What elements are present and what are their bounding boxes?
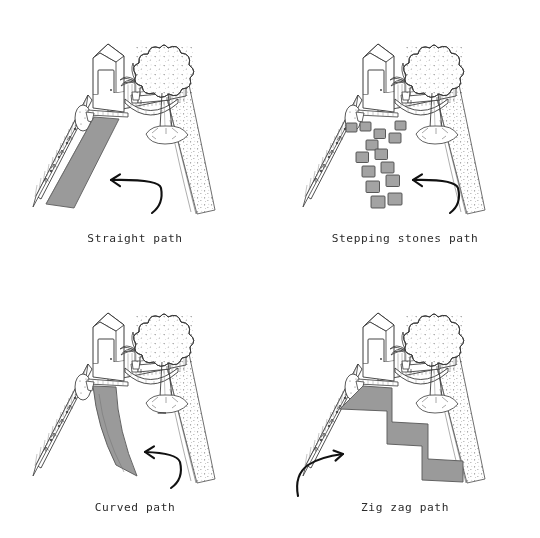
stepping-stone (366, 140, 378, 150)
stepping-stone (389, 133, 401, 143)
stepping-stone (360, 122, 371, 131)
scene-straight-path (0, 0, 270, 269)
stepping-stone (386, 175, 400, 187)
caption-straight-path: Straight path (0, 232, 270, 245)
panel-stepping-stones-path: Stepping stones path (270, 0, 540, 269)
garden-shed (86, 44, 128, 122)
scene-zigzag-path (270, 269, 540, 538)
stepping-stone (381, 162, 394, 173)
stepping-stone (388, 193, 402, 205)
scene-stepping-stones-path (270, 0, 540, 269)
path-stepping-stones (346, 121, 406, 208)
pointer-arrow (111, 174, 162, 213)
panel-zigzag-path: Zig zag path (270, 269, 540, 538)
panel-curved-path: Curved path (0, 269, 270, 538)
caption-zigzag-path: Zig zag path (270, 501, 540, 514)
scene-curved-path (0, 269, 270, 538)
stepping-stone (356, 152, 369, 163)
stepping-stone (346, 123, 357, 132)
stepping-stone (362, 166, 375, 177)
caption-curved-path: Curved path (0, 501, 270, 514)
caption-stepping-stones-path: Stepping stones path (270, 232, 540, 245)
stepping-stone (375, 149, 388, 160)
stepping-stone (395, 121, 406, 130)
stepping-stone (371, 196, 385, 208)
garden-shed (356, 313, 398, 391)
panel-straight-path: Straight path (0, 0, 270, 269)
pointer-arrow (413, 174, 459, 213)
garden-shed (356, 44, 398, 122)
pointer-arrow (145, 446, 181, 488)
path-curved (93, 386, 137, 476)
garden-shed (86, 313, 128, 391)
stepping-stone (366, 181, 380, 193)
stepping-stone (374, 129, 386, 139)
illustration-sheet: Straight path (0, 0, 540, 538)
